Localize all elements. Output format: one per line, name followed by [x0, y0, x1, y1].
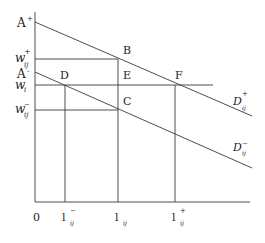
label-w-ij-plus: w + ij: [15, 47, 31, 69]
svg-text:ij: ij: [242, 104, 246, 112]
svg-text:ij: ij: [242, 149, 246, 157]
svg-text:l: l: [62, 211, 66, 224]
svg-text:+: +: [24, 47, 31, 56]
svg-text:ij: ij: [70, 219, 74, 227]
point-label-f: F: [175, 69, 183, 82]
label-w-ij-minus: w − ij: [15, 101, 30, 119]
svg-text:+: +: [180, 207, 186, 215]
svg-text:-: -: [27, 67, 30, 75]
point-label-c: C: [123, 95, 131, 108]
svg-text:−: −: [24, 101, 30, 109]
svg-text:+: +: [27, 15, 33, 23]
svg-text:D: D: [232, 141, 242, 154]
demand-curve-minus: [35, 72, 252, 168]
svg-text:A: A: [16, 16, 26, 30]
label-l-ij-minus: l − ij: [62, 207, 76, 227]
svg-text:ij: ij: [24, 111, 29, 119]
curve-label-d-minus: D − ij: [232, 140, 248, 157]
svg-text:+: +: [242, 90, 248, 98]
svg-text:D: D: [232, 95, 242, 108]
diagram-canvas: A + w + ij A - w i w − ij B E C D F D + …: [0, 0, 265, 243]
point-label-e: E: [123, 69, 131, 82]
point-label-d: D: [60, 69, 69, 82]
point-label-b: B: [123, 44, 131, 57]
label-l-ij-plus: l + ij: [172, 207, 186, 227]
label-w-i: w i: [15, 78, 26, 94]
svg-text:l: l: [172, 211, 176, 224]
svg-text:i: i: [24, 86, 26, 94]
label-l-ij: l ij: [115, 211, 127, 227]
label-origin: 0: [33, 211, 40, 224]
svg-text:ij: ij: [123, 219, 127, 227]
svg-text:−: −: [70, 207, 76, 215]
svg-text:−: −: [242, 140, 248, 148]
svg-text:l: l: [115, 211, 119, 224]
svg-text:ij: ij: [180, 219, 184, 227]
label-a-plus: A +: [16, 15, 33, 30]
